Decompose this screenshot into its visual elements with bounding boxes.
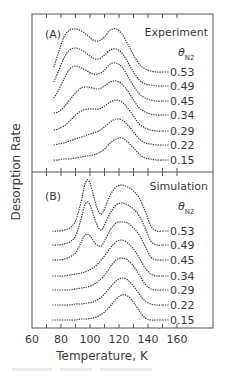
tpd-figure: (A) Experiment θN2 0.530.490.450.340.290… (0, 0, 228, 377)
series-label: 0.34 (170, 270, 195, 283)
series-label: 0.29 (170, 125, 195, 138)
series-curve-0.34 (52, 240, 162, 276)
panel-a-label: (A) (45, 28, 61, 41)
series-curve-0.29 (54, 100, 163, 131)
series-curve-0.34 (54, 81, 163, 115)
series-label: 0.49 (170, 80, 195, 93)
x-tick-labels: 6080100120140160 (25, 333, 188, 346)
series-label: 0.34 (170, 109, 195, 122)
panel-a-series-labels: 0.530.490.450.340.290.220.15 (170, 66, 195, 167)
x-tick-label: 160 (167, 333, 188, 346)
figure-caption-cutoff (12, 368, 212, 371)
series-curve-0.22 (52, 278, 162, 305)
panel-b-title: Simulation (149, 180, 208, 193)
series-curve-0.29 (52, 258, 162, 290)
x-tick-label: 100 (80, 333, 101, 346)
panel-a-curves (54, 29, 169, 160)
panel-b-legend-title: θN2 (178, 200, 194, 216)
series-label: 0.22 (170, 299, 195, 312)
series-curve-0.15 (52, 295, 162, 320)
x-axis-label: Temperature, K (55, 349, 149, 363)
series-label: 0.53 (170, 225, 195, 238)
y-axis-label: Desorption Rate (9, 123, 23, 220)
series-curve-0.49 (54, 48, 163, 86)
series-curve-0.45 (54, 63, 163, 101)
series-label: 0.53 (170, 66, 195, 79)
x-tick-label: 60 (25, 333, 39, 346)
series-curve-0.53 (52, 180, 162, 232)
series-label: 0.49 (170, 239, 195, 252)
series-curve-0.45 (52, 222, 162, 260)
axis-ticks (47, 14, 178, 328)
panel-b-series-labels: 0.530.490.450.340.290.220.15 (170, 225, 195, 327)
series-curve-0.22 (54, 119, 163, 145)
x-tick-label: 140 (138, 333, 159, 346)
series-label: 0.15 (170, 154, 195, 167)
x-tick-label: 80 (54, 333, 68, 346)
series-curve-0.15 (54, 138, 163, 160)
panel-b-label: (B) (45, 190, 61, 203)
x-tick-label: 120 (109, 333, 130, 346)
panel-b-curves (52, 180, 168, 320)
series-curve-0.49 (52, 202, 162, 245)
series-label: 0.45 (170, 254, 195, 267)
panel-a-title: Experiment (144, 26, 208, 39)
series-label: 0.15 (170, 314, 195, 327)
series-label: 0.29 (170, 284, 195, 297)
series-label: 0.45 (170, 95, 195, 108)
series-label: 0.22 (170, 139, 195, 152)
panel-a-legend-title: θN2 (178, 46, 194, 62)
